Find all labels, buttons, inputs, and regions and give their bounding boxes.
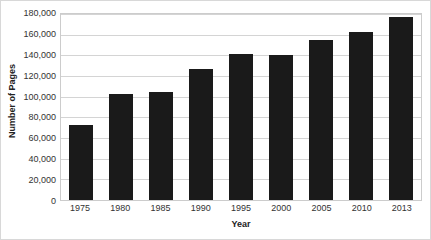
y-axis-tick-label: 100,000 <box>23 92 56 102</box>
x-axis-tick-label: 2000 <box>263 203 299 213</box>
y-axis-tick-label: 20,000 <box>28 175 56 185</box>
y-axis-tick-label: 40,000 <box>28 154 56 164</box>
y-axis-tick-label: 140,000 <box>23 50 56 60</box>
plot-area <box>60 13 422 201</box>
x-axis-tick-label: 2010 <box>344 203 380 213</box>
bar <box>149 92 173 201</box>
bar <box>349 32 373 200</box>
bar <box>109 94 133 200</box>
bar <box>309 40 333 200</box>
x-axis-tick-labels: 197519801985199019952000200520102013 <box>60 203 422 217</box>
y-axis-title-text: Number of Pages <box>7 64 17 138</box>
y-axis-tick-label: 180,000 <box>23 8 56 18</box>
bar-series <box>61 14 421 200</box>
x-axis-tick-label: 1975 <box>62 203 98 213</box>
bar <box>389 17 413 200</box>
x-axis-tick-label: 1980 <box>102 203 138 213</box>
x-axis-tick-label: 2005 <box>303 203 339 213</box>
y-axis-tick-label: 160,000 <box>23 29 56 39</box>
bar <box>189 69 213 200</box>
y-axis-tick-label: 120,000 <box>23 71 56 81</box>
x-axis-tick-label: 1995 <box>223 203 259 213</box>
bar-chart-figure: Number of Pages 180,000160,000140,000120… <box>0 0 431 240</box>
x-axis-tick-label: 1985 <box>143 203 179 213</box>
y-axis-tick-labels: 180,000160,000140,000120,000100,00080,00… <box>19 13 59 201</box>
y-axis-tick-label: 0 <box>51 196 56 206</box>
x-axis-tick-label: 1990 <box>183 203 219 213</box>
bar <box>69 125 93 200</box>
bar <box>229 54 253 200</box>
x-axis-tick-label: 2013 <box>384 203 420 213</box>
bar <box>269 55 293 200</box>
chart-title <box>1 0 431 6</box>
y-axis-tick-label: 80,000 <box>28 112 56 122</box>
y-axis-tick-label: 60,000 <box>28 133 56 143</box>
x-axis-title: Year <box>60 219 422 229</box>
